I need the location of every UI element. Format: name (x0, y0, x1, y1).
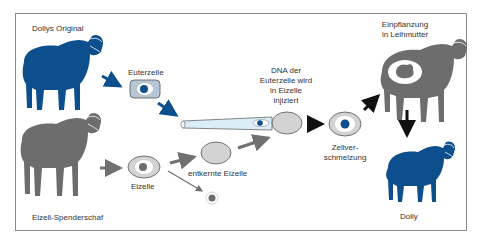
enucleated-egg-icon (201, 142, 231, 164)
implant-line-1: Einpflanzung (372, 20, 438, 30)
dna-line-1: DNA der (256, 66, 316, 76)
egg-cell-icon (128, 156, 160, 178)
label-enucleated: entkernte Eizelle (188, 169, 247, 179)
removed-nucleus-icon (206, 192, 218, 204)
fusion-line-2: schmelzung (320, 153, 370, 163)
label-original: Dollys Original (32, 24, 84, 34)
dna-line-4: injiziert (256, 96, 316, 106)
dna-line-2: Euterzelle wird (256, 76, 316, 86)
label-dna-injection: DNA der Euterzelle wird in Eizelle injiz… (256, 66, 316, 106)
label-implantation: Einpflanzung in Leihmutter (372, 20, 438, 40)
implant-line-2: in Leihmutter (372, 30, 438, 40)
injected-egg-icon (272, 112, 302, 134)
fusion-line-1: Zellver- (320, 143, 370, 153)
arrow-egg-to-enucleated (170, 157, 194, 163)
dna-line-3: in Eizelle (256, 86, 316, 96)
dolly-sheep-icon (386, 141, 455, 202)
fused-cell-icon (329, 112, 361, 136)
surrogate-sheep-icon (381, 39, 467, 122)
arrow-to-surrogate (364, 96, 378, 110)
arrow-cell-to-pipette (158, 103, 176, 115)
label-dolly: Dolly (400, 212, 418, 222)
udder-cell-icon (130, 80, 160, 98)
label-egg-cell: Eizelle (131, 182, 155, 192)
arrow-original-to-cell (102, 76, 120, 86)
donor-sheep-icon (21, 113, 101, 196)
arrow-enucleated-to-pipette (238, 138, 268, 148)
original-sheep-icon (23, 35, 103, 110)
pipette-icon (181, 117, 272, 130)
label-donor: Eizell-Spenderschaf (32, 213, 103, 223)
label-fusion: Zellver- schmelzung (320, 143, 370, 163)
label-udder-cell: Euterzelle (128, 68, 164, 78)
